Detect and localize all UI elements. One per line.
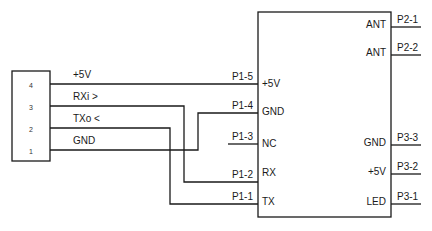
pin-label-gnd: GND <box>262 106 284 117</box>
pin-id-p3-1: P3-1 <box>397 191 419 202</box>
pin-id-p1-1: P1-1 <box>232 191 254 202</box>
pin-label-tx: TX <box>262 196 275 207</box>
pin-id-p3-3: P3-3 <box>397 132 419 143</box>
pin-label-gnd-right: GND <box>364 137 386 148</box>
connector-pin-2-number: 2 <box>29 126 33 133</box>
pin-label-nc: NC <box>262 138 276 149</box>
connector-pin-1-number: 1 <box>29 148 33 155</box>
pin-id-p1-3: P1-3 <box>232 131 254 142</box>
pin-id-p1-4: P1-4 <box>232 100 254 111</box>
connector-pin-4-number: 4 <box>29 82 33 89</box>
pin-id-p2-1: P2-1 <box>397 14 419 25</box>
signal-label-5v: +5V <box>73 69 91 80</box>
pin-label-ant-2: ANT <box>366 47 386 58</box>
pin-label-5v-right: +5V <box>368 166 386 177</box>
schematic-diagram: 4 3 2 1 +5V RXi > TXo < GND P1-5 P1-4 P1… <box>0 0 432 231</box>
pin-id-p1-2: P1-2 <box>232 169 254 180</box>
pin-id-p2-2: P2-2 <box>397 42 419 53</box>
signal-label-gnd: GND <box>73 135 95 146</box>
pin-id-p3-2: P3-2 <box>397 161 419 172</box>
signal-label-txo: TXo < <box>73 113 100 124</box>
pin-id-p1-5: P1-5 <box>232 71 254 82</box>
pin-label-ant-1: ANT <box>366 19 386 30</box>
pin-label-5v: +5V <box>262 78 280 89</box>
pin-label-rx: RX <box>262 167 276 178</box>
signal-label-rxi: RXi > <box>73 91 98 102</box>
connector-pin-3-number: 3 <box>29 104 33 111</box>
pin-label-led: LED <box>367 196 386 207</box>
